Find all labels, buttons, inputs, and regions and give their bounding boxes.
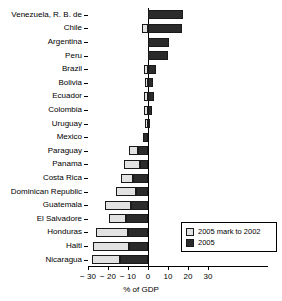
bar-segment-2005 [148, 24, 182, 33]
bar-segment-2005 [133, 174, 148, 183]
x-axis-tick [148, 266, 149, 270]
bar-segment-2005 [143, 133, 148, 142]
bar-segment-mark-to-2002 [124, 160, 140, 169]
legend-swatch-mark-to-2002 [186, 228, 194, 236]
bar-segment-mark-to-2002 [116, 187, 136, 196]
bar-row [0, 174, 282, 183]
bar-segment-mark-to-2002 [92, 255, 120, 264]
legend-swatch-2005 [186, 239, 194, 247]
bar-row [0, 78, 282, 87]
bar-segment-2005 [138, 146, 148, 155]
bar-row [0, 51, 282, 60]
bar-row [0, 133, 282, 142]
bar-row [0, 146, 282, 155]
bar-segment-2005 [129, 242, 148, 251]
x-axis-tick-label: 30 [188, 272, 228, 282]
bar-segment-mark-to-2002 [144, 106, 148, 115]
bar-segment-mark-to-2002 [105, 201, 131, 210]
bar-segment-mark-to-2002 [121, 174, 133, 183]
bar-row [0, 160, 282, 169]
bar-row [0, 92, 282, 101]
bar-segment-mark-to-2002 [129, 146, 138, 155]
bar-segment-2005 [148, 38, 169, 47]
bar-segment-2005 [120, 255, 148, 264]
bar-row [0, 65, 282, 74]
legend-item: 2005 [186, 237, 273, 248]
bar-segment-mark-to-2002 [144, 92, 148, 101]
bar-row [0, 201, 282, 210]
bar-segment-2005 [128, 228, 148, 237]
bar-segment-2005 [131, 201, 148, 210]
bar-row [0, 255, 282, 264]
bar-segment-2005 [148, 10, 183, 19]
bar-segment-mark-to-2002 [144, 65, 148, 74]
bar-segment-2005 [148, 51, 168, 60]
bar-segment-2005 [148, 78, 153, 87]
x-axis-tick [88, 266, 89, 270]
bar-row [0, 106, 282, 115]
x-axis-label: % of GDP [0, 285, 282, 294]
bar-row [0, 24, 282, 33]
bar-segment-2005 [148, 106, 152, 115]
legend-label: 2005 mark to 2002 [198, 227, 261, 236]
bar-segment-2005 [148, 65, 156, 74]
legend-label: 2005 [198, 238, 215, 247]
chart-legend: 2005 mark to 2002 2005 [181, 222, 277, 252]
x-axis-tick [168, 266, 169, 270]
bar-row [0, 10, 282, 19]
x-axis-tick [128, 266, 129, 270]
bar-row [0, 187, 282, 196]
bar-segment-2005 [148, 92, 154, 101]
bar-segment-mark-to-2002 [145, 119, 148, 128]
x-axis-tick [208, 266, 209, 270]
bar-segment-mark-to-2002 [145, 78, 148, 87]
bar-segment-2005 [136, 187, 148, 196]
bar-segment-mark-to-2002 [93, 242, 129, 251]
x-axis-tick [108, 266, 109, 270]
x-axis-tick [188, 266, 189, 270]
bar-row [0, 38, 282, 47]
bar-segment-mark-to-2002 [109, 214, 126, 223]
x-axis-line [88, 266, 268, 267]
bar-segment-mark-to-2002 [142, 24, 148, 33]
bar-row [0, 119, 282, 128]
bar-segment-2005 [148, 119, 150, 128]
bar-segment-2005 [140, 160, 148, 169]
legend-item: 2005 mark to 2002 [186, 226, 273, 237]
chart-container: Venezuela, R. B. deChileArgentinaPeruBra… [0, 0, 282, 301]
bar-segment-2005 [126, 214, 148, 223]
bar-segment-mark-to-2002 [96, 228, 128, 237]
